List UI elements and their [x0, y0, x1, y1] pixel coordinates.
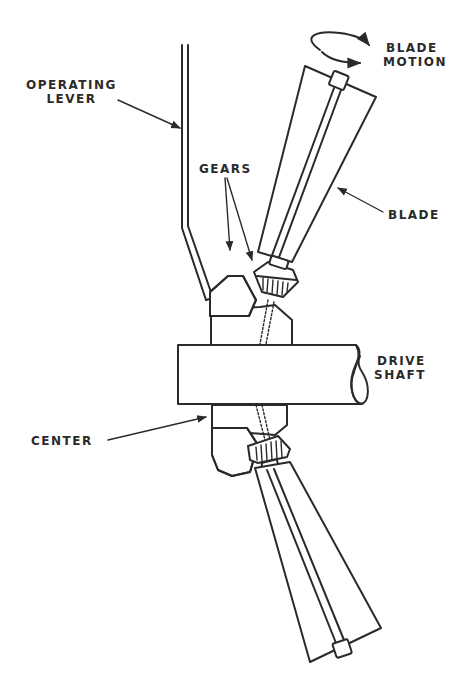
center-label: CENTER [31, 434, 93, 448]
blade-motion-label-line2: MOTION [383, 55, 447, 69]
upper-hub [210, 255, 298, 345]
drive-shaft-label-line1: DRIVE [374, 354, 426, 368]
drive-shaft-label: DRIVE SHAFT [374, 354, 426, 382]
blade-label: BLADE [388, 208, 440, 222]
upper-blade [258, 66, 376, 262]
blade-motion-label: BLADE MOTION [383, 41, 447, 69]
gears-label: GEARS [199, 162, 252, 176]
operating-lever-label: OPERATING LEVER [26, 78, 117, 106]
operating-lever-label-line2: LEVER [26, 92, 117, 106]
drive-shaft [178, 345, 368, 404]
blade-motion-label-line1: BLADE [383, 41, 447, 55]
blade-motion-arrow-icon [311, 32, 369, 63]
drive-shaft-label-line2: SHAFT [374, 368, 426, 382]
lower-blade [255, 462, 381, 662]
operating-lever-label-line1: OPERATING [26, 78, 117, 92]
